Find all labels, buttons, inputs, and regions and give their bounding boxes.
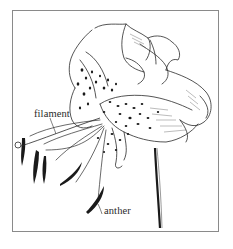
- anther-label: anther: [104, 205, 131, 216]
- filament-label: filament: [34, 108, 70, 119]
